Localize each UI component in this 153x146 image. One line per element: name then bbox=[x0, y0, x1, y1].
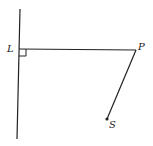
label-l: L bbox=[6, 43, 14, 54]
label-s: S bbox=[109, 119, 116, 130]
label-p: P bbox=[137, 41, 145, 52]
segment-lp bbox=[19, 49, 136, 50]
vertical-line bbox=[17, 9, 20, 139]
geometry-diagram: L P S bbox=[0, 0, 153, 146]
right-angle-marker bbox=[19, 49, 26, 56]
segment-ps bbox=[107, 50, 136, 119]
